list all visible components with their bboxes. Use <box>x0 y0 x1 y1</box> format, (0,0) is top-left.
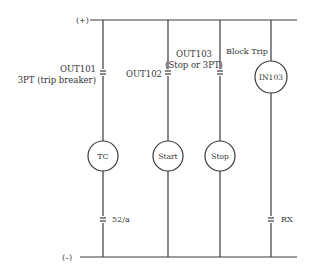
contact-52a-label: 52/a <box>112 215 130 224</box>
positive-rail-label: (+) <box>76 16 89 25</box>
contact-out101-label: OUT101 <box>60 64 96 74</box>
coil-start-label: Start <box>158 152 177 161</box>
contact-rx-icon <box>268 218 274 221</box>
contact-rx-label: RX <box>281 215 293 224</box>
contact-out103-icon <box>217 71 223 74</box>
positive-rail: (+) <box>76 16 297 25</box>
contact-out103-label: OUT103 <box>176 49 212 59</box>
relay-logic-diagram: (+) (–) OUT101 3PT (trip breaker) TC 52/… <box>0 0 311 272</box>
branch-out101: OUT101 3PT (trip breaker) TC 52/a <box>18 20 130 257</box>
contact-52a-icon <box>100 218 106 221</box>
contact-out101-icon <box>100 71 106 74</box>
block-trip-label: Block Trip <box>226 47 268 56</box>
contact-out102-label: OUT102 <box>126 69 162 79</box>
negative-rail-label: (–) <box>62 253 72 262</box>
branch-in103: Block Trip IN103 RX <box>226 20 293 257</box>
contact-out102-icon <box>165 71 171 74</box>
input-in103-label: IN103 <box>259 73 283 82</box>
coil-tc-label: TC <box>97 152 108 161</box>
coil-stop-label: Stop <box>211 152 229 161</box>
branch-out102: OUT102 Start <box>126 20 183 257</box>
contact-out101-sublabel: 3PT (trip breaker) <box>18 75 96 85</box>
contact-out103-sublabel: (Stop or 3PT) <box>165 60 223 70</box>
branch-out103: OUT103 (Stop or 3PT) Stop <box>165 20 235 257</box>
negative-rail: (–) <box>62 253 297 262</box>
